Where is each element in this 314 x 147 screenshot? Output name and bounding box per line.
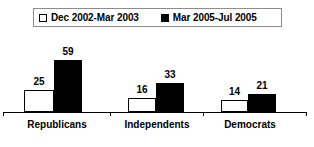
bar-republicans-series-1 bbox=[54, 60, 82, 112]
bar-republicans-series-0 bbox=[24, 90, 54, 112]
axis-tick bbox=[3, 112, 4, 116]
axis-tick bbox=[110, 112, 111, 116]
x-axis-line bbox=[3, 112, 307, 113]
bar-value-label: 33 bbox=[150, 70, 190, 80]
bar-democrats-series-1 bbox=[248, 94, 276, 112]
bar-independents-series-1 bbox=[156, 83, 184, 112]
axis-tick bbox=[203, 112, 204, 116]
bar-value-label: 59 bbox=[48, 47, 88, 57]
plot-area: 2559Republicans1633Independents1421Democ… bbox=[0, 0, 314, 147]
axis-tick bbox=[306, 112, 307, 116]
category-label-democrats: Democrats bbox=[195, 119, 305, 130]
bar-democrats-series-0 bbox=[221, 100, 248, 112]
bar-chart: Dec 2002-Mar 2003 Mar 2005-Jul 2005 2559… bbox=[0, 0, 314, 147]
bar-independents-series-0 bbox=[128, 98, 156, 112]
bar-value-label: 21 bbox=[242, 81, 282, 91]
category-label-republicans: Republicans bbox=[2, 119, 112, 130]
